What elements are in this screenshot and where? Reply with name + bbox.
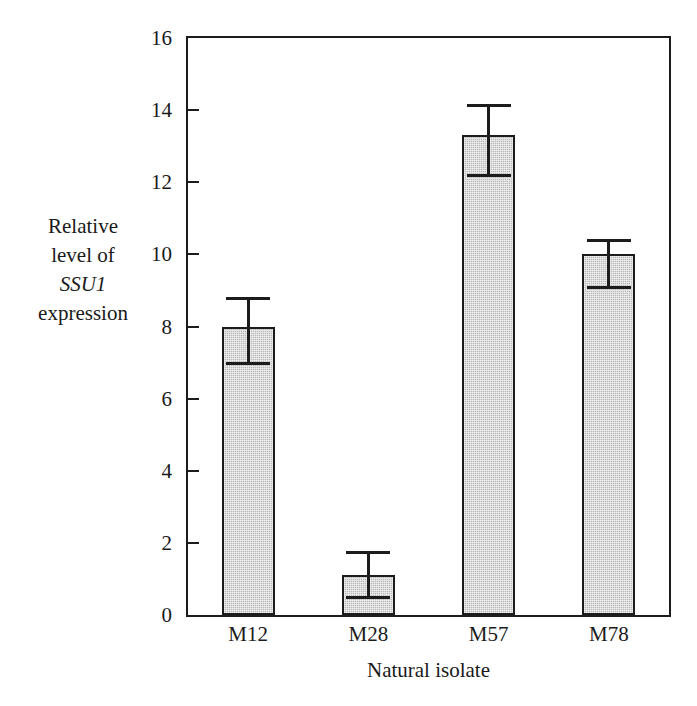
y-axis-tick-label: 6 — [162, 388, 173, 409]
error-bar-stem-m78 — [607, 240, 610, 287]
y-axis-tick — [188, 253, 199, 255]
bar-m57 — [462, 135, 515, 615]
error-bar-lower-cap-m28 — [346, 596, 390, 599]
y-axis-tick-label: 2 — [162, 532, 173, 553]
plot-area — [188, 38, 669, 615]
y-axis-tick-label: 10 — [151, 244, 172, 265]
error-bar-upper-cap-m12 — [226, 297, 270, 300]
y-axis-title: Relative level of SSU1 expression — [8, 212, 158, 328]
x-axis-title: Natural isolate — [186, 660, 671, 681]
bar-m78 — [582, 254, 635, 615]
error-bar-stem-m57 — [487, 105, 490, 175]
y-axis-tick — [188, 542, 199, 544]
y-axis-title-line-1: Relative — [8, 212, 158, 241]
y-axis-tick-label: 12 — [151, 172, 172, 193]
x-axis-tick-label-m28: M28 — [308, 624, 428, 645]
x-axis-tick-label-m78: M78 — [549, 624, 669, 645]
y-axis-tick — [188, 326, 199, 328]
error-bar-lower-cap-m57 — [467, 174, 511, 177]
y-axis-tick — [188, 470, 199, 472]
error-bar-upper-cap-m28 — [346, 551, 390, 554]
x-axis-tick-label-m12: M12 — [188, 624, 308, 645]
y-axis-tick — [188, 109, 199, 111]
y-axis-tick-label: 14 — [151, 100, 172, 121]
y-axis-title-line-2: level of — [8, 241, 158, 270]
y-axis-title-line-3-gene-name: SSU1 — [8, 270, 158, 299]
y-axis-tick-label: 0 — [162, 605, 173, 626]
y-axis-tick-label: 8 — [162, 316, 173, 337]
y-axis-tick — [188, 398, 199, 400]
y-axis-title-line-4: expression — [8, 299, 158, 328]
error-bar-upper-cap-m57 — [467, 104, 511, 107]
error-bar-upper-cap-m78 — [587, 239, 631, 242]
y-axis-tick-label: 4 — [162, 460, 173, 481]
error-bar-lower-cap-m12 — [226, 362, 270, 365]
y-axis-tick-label: 16 — [151, 28, 172, 49]
error-bar-lower-cap-m78 — [587, 286, 631, 289]
error-bar-stem-m28 — [367, 552, 370, 597]
y-axis-tick — [188, 181, 199, 183]
bar-m12 — [222, 327, 275, 616]
error-bar-stem-m12 — [247, 298, 250, 363]
plot-frame — [186, 36, 671, 617]
bar-chart-figure: Relative level of SSU1 expression Natura… — [0, 0, 697, 706]
x-axis-tick-label-m57: M57 — [429, 624, 549, 645]
